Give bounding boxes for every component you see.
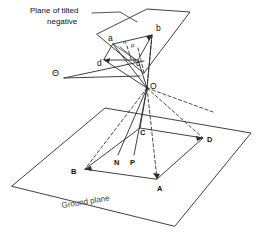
plane-caption-line2: negative: [47, 17, 78, 26]
geometry-diagram: Plane of tilted negative Θ a b c d n p o…: [0, 0, 264, 237]
point-label-n: n: [123, 39, 126, 45]
perspective-center-label: O: [150, 81, 157, 91]
point-label-B: B: [71, 167, 77, 176]
plane-caption-line1: Plane of tilted: [30, 6, 78, 15]
perspective-center-dot: [146, 87, 149, 90]
point-label-P: P: [130, 158, 135, 167]
point-label-d: d: [97, 58, 102, 68]
point-label-a: a: [108, 33, 113, 43]
background: [0, 0, 264, 237]
figure-canvas: Plane of tilted negative Θ a b c d n p o…: [0, 0, 264, 237]
point-label-C: C: [140, 128, 146, 137]
point-label-b: b: [156, 23, 161, 33]
tilt-angle-label: Θ: [52, 68, 59, 78]
point-label-A: A: [157, 184, 163, 193]
point-label-N: N: [114, 158, 119, 167]
point-label-D: D: [207, 135, 213, 144]
